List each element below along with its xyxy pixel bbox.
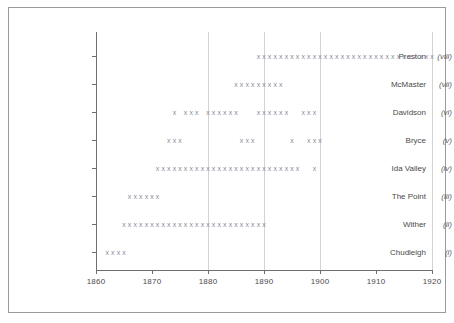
y-axis-label-name: McMaster xyxy=(391,80,426,89)
data-mark: x xyxy=(178,221,182,228)
data-mark: x xyxy=(156,193,160,200)
data-mark: x xyxy=(257,81,261,88)
x-tick-1890 xyxy=(264,270,265,274)
x-tick-label-1860: 1860 xyxy=(76,277,116,286)
data-mark: x xyxy=(257,109,261,116)
data-mark: x xyxy=(234,81,238,88)
data-mark: x xyxy=(257,53,261,60)
data-mark: x xyxy=(173,165,177,172)
gridline-1900 xyxy=(320,32,321,270)
data-mark: x xyxy=(352,53,356,60)
data-mark: x xyxy=(363,53,367,60)
data-mark: x xyxy=(257,221,261,228)
data-mark: x xyxy=(212,109,216,116)
data-mark: x xyxy=(268,109,272,116)
x-tick-label-1900: 1900 xyxy=(300,277,340,286)
data-mark: x xyxy=(240,81,244,88)
data-mark: x xyxy=(223,221,227,228)
data-mark: x xyxy=(128,193,132,200)
data-mark: x xyxy=(240,165,244,172)
data-mark: x xyxy=(313,53,317,60)
data-mark: x xyxy=(285,53,289,60)
data-mark: x xyxy=(195,109,199,116)
y-tick-chudleigh xyxy=(92,252,96,253)
data-mark: x xyxy=(223,109,227,116)
data-mark: x xyxy=(273,109,277,116)
data-mark: x xyxy=(245,165,249,172)
data-mark: x xyxy=(296,53,300,60)
y-tick-the-point xyxy=(92,196,96,197)
data-mark: x xyxy=(189,221,193,228)
data-mark: x xyxy=(279,81,283,88)
data-mark: x xyxy=(262,165,266,172)
gridline-1880 xyxy=(208,32,209,270)
data-mark: x xyxy=(128,221,132,228)
plot-area: 1860187018801890190019101920 Chudleigh(i… xyxy=(0,0,454,323)
data-mark: x xyxy=(234,165,238,172)
y-axis-line xyxy=(96,32,97,270)
data-mark: x xyxy=(251,81,255,88)
data-mark: x xyxy=(189,109,193,116)
y-axis-label-name: Ida Valley xyxy=(391,164,426,173)
data-mark: x xyxy=(212,221,216,228)
data-mark: x xyxy=(195,221,199,228)
x-tick-label-1890: 1890 xyxy=(244,277,284,286)
data-mark: x xyxy=(369,53,373,60)
data-mark: x xyxy=(245,221,249,228)
data-mark: x xyxy=(139,221,143,228)
data-mark: x xyxy=(413,53,417,60)
x-tick-1910 xyxy=(376,270,377,274)
y-axis-label-name: Wither xyxy=(403,220,426,229)
data-mark: x xyxy=(229,165,233,172)
y-axis-label-name: The Point xyxy=(392,192,426,201)
data-mark: x xyxy=(307,137,311,144)
data-mark: x xyxy=(167,165,171,172)
data-mark: x xyxy=(240,137,244,144)
data-mark: x xyxy=(419,53,423,60)
data-mark: x xyxy=(251,165,255,172)
y-axis-label-numeral: (ii) xyxy=(430,220,452,229)
data-mark: x xyxy=(408,53,412,60)
y-axis-label-bryce: Bryce(v) xyxy=(362,136,454,145)
data-mark: x xyxy=(374,53,378,60)
y-axis-label-numeral: (iii) xyxy=(430,192,452,201)
data-mark: x xyxy=(184,109,188,116)
data-mark: x xyxy=(156,221,160,228)
data-mark: x xyxy=(217,221,221,228)
data-mark: x xyxy=(313,109,317,116)
data-mark: x xyxy=(279,53,283,60)
data-mark: x xyxy=(150,221,154,228)
data-mark: x xyxy=(402,53,406,60)
data-mark: x xyxy=(223,165,227,172)
data-mark: x xyxy=(206,165,210,172)
data-mark: x xyxy=(273,165,277,172)
data-mark: x xyxy=(262,109,266,116)
data-mark: x xyxy=(385,53,389,60)
data-mark: x xyxy=(262,221,266,228)
y-axis-label-name: Davidson xyxy=(393,108,426,117)
y-axis-label-davidson: Davidson(vi) xyxy=(362,108,454,117)
data-mark: x xyxy=(425,53,429,60)
y-tick-wither xyxy=(92,224,96,225)
data-mark: x xyxy=(268,81,272,88)
data-mark: x xyxy=(173,137,177,144)
data-mark: x xyxy=(150,193,154,200)
data-mark: x xyxy=(161,221,165,228)
data-mark: x xyxy=(245,137,249,144)
data-mark: x xyxy=(380,53,384,60)
data-mark: x xyxy=(184,165,188,172)
data-mark: x xyxy=(195,165,199,172)
data-mark: x xyxy=(290,165,294,172)
data-mark: x xyxy=(341,53,345,60)
y-axis-label-numeral: (vii) xyxy=(430,80,452,89)
data-mark: x xyxy=(335,53,339,60)
data-mark: x xyxy=(279,109,283,116)
data-mark: x xyxy=(111,249,115,256)
data-mark: x xyxy=(273,81,277,88)
data-mark: x xyxy=(217,109,221,116)
y-axis-label-chudleigh: Chudleigh(i) xyxy=(362,248,454,257)
y-tick-mcmaster xyxy=(92,84,96,85)
y-axis-label-name: Chudleigh xyxy=(390,248,426,257)
data-mark: x xyxy=(234,221,238,228)
data-mark: x xyxy=(178,165,182,172)
